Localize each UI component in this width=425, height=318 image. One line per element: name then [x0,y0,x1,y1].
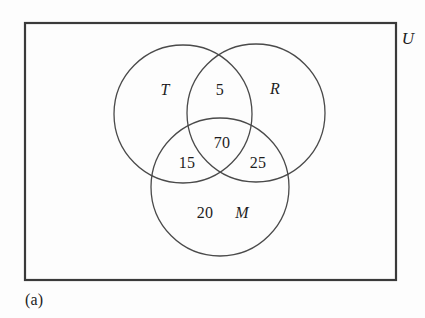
region-count-t-m: 15 [179,155,196,171]
region-count-m-only: 20 [197,205,214,221]
region-count-r-m: 25 [250,155,267,171]
set-label-t: T [160,82,169,98]
figure-caption: (a) [25,291,43,309]
universal-set-label: U [402,30,414,47]
region-count-t-r: 5 [216,82,224,98]
set-label-m: M [235,205,249,221]
figure-background [0,0,425,318]
venn-figure: U T R M 5 70 15 25 20 (a) [0,0,425,318]
set-label-r: R [270,81,280,97]
venn-diagram-canvas [0,0,425,318]
region-count-t-r-m: 70 [214,135,231,151]
